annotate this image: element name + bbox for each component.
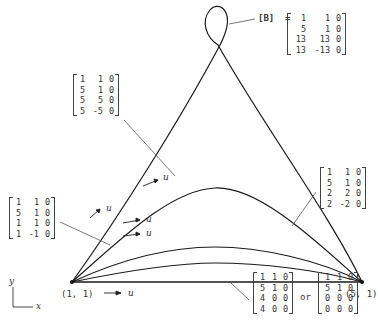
u-label: u bbox=[128, 288, 134, 298]
or-label: or bbox=[300, 292, 311, 302]
leader-low-left bbox=[60, 222, 110, 245]
leader-loop bbox=[229, 19, 255, 24]
u-label: u bbox=[106, 203, 112, 213]
u-label: u bbox=[146, 214, 152, 224]
matrix-loop: 110 510 13130 13-130 bbox=[287, 13, 346, 55]
matrix-straight-line-a: 110 510 400 400 bbox=[253, 272, 293, 314]
leader-high-arch bbox=[124, 120, 175, 176]
curve-high-arch bbox=[72, 188, 362, 282]
x-axis-label: x bbox=[36, 301, 41, 311]
leader-mid-right bbox=[292, 192, 316, 226]
u-label: u bbox=[146, 228, 152, 238]
matrix-low-arch: 110 510 110 1-10 bbox=[9, 197, 55, 239]
matrix-mid-arch: 110 510 220 2-20 bbox=[320, 167, 366, 209]
u-label: u bbox=[163, 172, 169, 182]
b-matrix-label: [B] = bbox=[258, 13, 291, 23]
start-point bbox=[70, 280, 74, 284]
matrix-high-arch: 110 510 550 5-50 bbox=[73, 74, 119, 116]
end-point bbox=[360, 280, 364, 284]
leader-straight bbox=[230, 282, 249, 300]
axes-icon bbox=[13, 287, 33, 307]
matrix-straight-line-b: 110 510 000 000 bbox=[318, 272, 358, 314]
start-point-label: (1, 1) bbox=[61, 289, 94, 299]
y-axis-label: y bbox=[9, 276, 14, 286]
